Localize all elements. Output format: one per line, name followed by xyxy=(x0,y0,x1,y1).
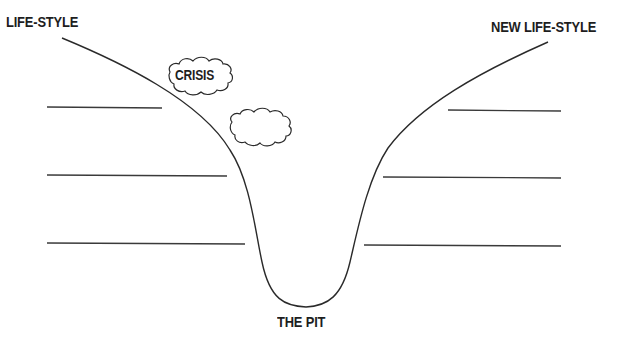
pit-curve-diagram xyxy=(0,0,621,347)
right-blank-line-1[interactable] xyxy=(448,110,561,111)
left-blank-line-2[interactable] xyxy=(47,175,227,176)
lifestyle-label: LIFE-STYLE xyxy=(6,13,78,30)
crisis-label: CRISIS xyxy=(175,67,214,83)
left-blank-line-3[interactable] xyxy=(47,243,245,244)
right-blank-line-2[interactable] xyxy=(383,177,561,178)
transition-curve xyxy=(62,38,548,307)
empty-cloud-icon xyxy=(230,108,291,146)
new-lifestyle-label: NEW LIFE-STYLE xyxy=(491,18,596,35)
right-blank-line-3[interactable] xyxy=(364,245,561,246)
the-pit-label: THE PIT xyxy=(277,313,325,330)
left-blank-line-1[interactable] xyxy=(47,107,162,108)
